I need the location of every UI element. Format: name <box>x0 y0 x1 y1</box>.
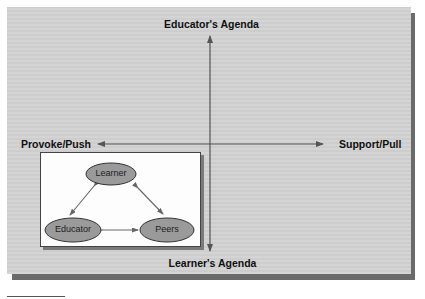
footer-rule <box>7 296 65 297</box>
node-label-peers: Peers <box>140 224 194 234</box>
node-label-educator: Educator <box>45 224 101 234</box>
edge-learner-peers <box>138 188 163 214</box>
triad-graphic <box>0 0 425 299</box>
node-label-learner: Learner <box>86 168 136 178</box>
edge-learner-educator <box>70 186 94 215</box>
